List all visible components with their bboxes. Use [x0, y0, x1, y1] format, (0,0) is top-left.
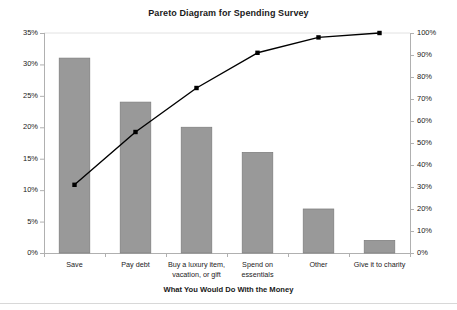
x-axis-category-label-line: Give it to charity — [338, 260, 421, 270]
right-axis-tick-label: 80% — [417, 72, 447, 81]
cumulative-line-marker — [316, 35, 320, 39]
left-axis-tick-label: 35% — [12, 28, 38, 37]
bar — [303, 209, 334, 253]
cumulative-line-marker — [194, 86, 198, 90]
left-axis-tick-label: 15% — [12, 154, 38, 163]
left-axis-tick-label: 0% — [12, 248, 38, 257]
x-axis-title: What You Would Do With the Money — [0, 285, 457, 294]
bar — [59, 58, 90, 253]
left-axis-tick-label: 20% — [12, 122, 38, 131]
right-axis-tick-label: 20% — [417, 204, 447, 213]
figure-bottom-rule — [0, 303, 457, 304]
cumulative-line-marker — [133, 130, 137, 134]
bar — [242, 152, 273, 253]
right-axis-tick-label: 90% — [417, 50, 447, 59]
right-axis-tick-label: 10% — [417, 226, 447, 235]
x-axis-category-label: Give it to charity — [338, 260, 421, 270]
bar — [364, 240, 395, 253]
right-axis-tick-label: 40% — [417, 160, 447, 169]
cumulative-line-marker — [377, 31, 381, 35]
cumulative-line-marker — [72, 183, 76, 187]
left-axis-tick-label: 25% — [12, 91, 38, 100]
right-axis-tick-label: 100% — [417, 28, 447, 37]
right-axis-tick-label: 70% — [417, 94, 447, 103]
right-axis-tick-label: 30% — [417, 182, 447, 191]
pareto-chart-figure: Pareto Diagram for Spending Survey What … — [0, 0, 457, 310]
right-axis-tick-label: 50% — [417, 138, 447, 147]
right-axis-tick-label: 0% — [417, 248, 447, 257]
left-axis-tick-label: 5% — [12, 217, 38, 226]
cumulative-line-marker — [255, 51, 259, 55]
bar — [181, 127, 212, 253]
right-axis-tick-label: 60% — [417, 116, 447, 125]
left-axis-tick-label: 10% — [12, 185, 38, 194]
left-axis-tick-label: 30% — [12, 59, 38, 68]
x-axis-category-label-line: essentials — [216, 270, 299, 280]
